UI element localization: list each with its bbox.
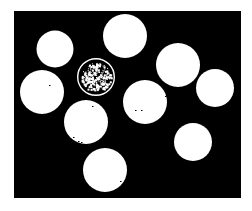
coin-1	[37, 31, 74, 68]
speck	[73, 137, 75, 138]
coins-threshold-image	[0, 0, 252, 211]
speck	[81, 142, 83, 143]
coin-9	[174, 123, 212, 161]
coin-2	[103, 14, 147, 58]
speck	[135, 110, 137, 111]
coin-6	[20, 70, 64, 114]
speck	[92, 106, 94, 107]
coin-8	[64, 100, 108, 144]
coin-5	[196, 69, 234, 107]
coin-10	[83, 148, 127, 192]
speck	[165, 96, 167, 97]
coin-4	[156, 43, 200, 87]
speck	[120, 181, 122, 182]
speck	[49, 85, 51, 86]
coin-7	[123, 80, 167, 124]
speck	[78, 141, 80, 142]
speck	[141, 110, 143, 111]
